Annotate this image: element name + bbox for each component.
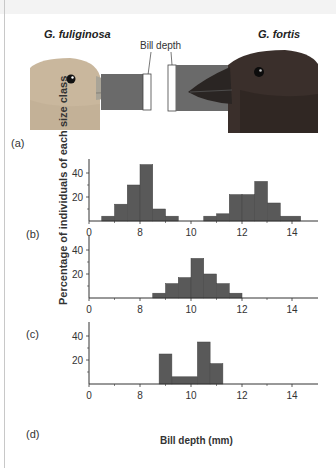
x-tick-label: 8 (137, 390, 143, 401)
y-tick-label: 40 (72, 245, 84, 256)
y-tick-label: 40 (72, 168, 84, 179)
histogram-bar (197, 342, 210, 384)
y-tick-label: 20 (72, 355, 84, 366)
x-tick-label: 12 (236, 390, 248, 401)
histogram-bar (172, 377, 198, 384)
x-tick-label: 8 (137, 227, 143, 238)
histogram-bar (178, 278, 191, 298)
histogram-bar (229, 195, 242, 221)
x-tick-label: 8 (137, 304, 143, 315)
histogram-bar (166, 216, 179, 221)
x-tick-label: 0 (86, 390, 92, 401)
histogram-bar (204, 274, 217, 298)
histogram-bar (191, 258, 204, 298)
histogram-bar (242, 195, 255, 221)
histogram-bar (127, 185, 140, 221)
y-tick-label: 20 (72, 192, 84, 203)
x-tick-label: 10 (185, 227, 197, 238)
histogram-charts: 204008101214204008101214204008101214 (0, 0, 336, 468)
histogram-bar (153, 209, 166, 221)
histogram-bar (204, 216, 217, 221)
x-tick-label: 0 (86, 304, 92, 315)
x-tick-label: 14 (286, 227, 298, 238)
histogram-panel-d: 204008101214 (72, 322, 318, 401)
histogram-bar (159, 354, 172, 384)
histogram-bar (217, 214, 230, 221)
histogram-bar (115, 204, 128, 221)
histogram-bar (153, 293, 166, 298)
histogram-bar (280, 216, 300, 221)
histogram-panel-c: 204008101214 (72, 236, 318, 315)
histogram-bar (102, 216, 115, 221)
x-tick-label: 10 (185, 304, 197, 315)
x-tick-label: 14 (286, 390, 298, 401)
histogram-bar (210, 364, 223, 384)
y-tick-label: 20 (72, 269, 84, 280)
x-tick-label: 14 (286, 304, 298, 315)
x-tick-label: 10 (185, 390, 197, 401)
histogram-bar (217, 284, 230, 298)
y-tick-label: 40 (72, 331, 84, 342)
histogram-bar (268, 203, 281, 221)
histogram-panel-b: 204008101214 (72, 159, 318, 238)
x-tick-label: 12 (236, 304, 248, 315)
histogram-bar (229, 293, 242, 298)
x-tick-label: 12 (236, 227, 248, 238)
histogram-bar (140, 165, 153, 221)
histogram-bar (166, 284, 179, 298)
histogram-bar (255, 181, 268, 221)
